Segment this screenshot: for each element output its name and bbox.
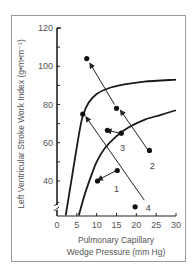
data-point [95, 178, 100, 183]
lower-curve [79, 110, 176, 215]
axes: 406080100120051015202530 [38, 23, 181, 230]
data-point [84, 56, 89, 61]
x-tick-label: 30 [171, 220, 181, 230]
y-tick-label: 100 [38, 61, 53, 71]
x-tick-label: 0 [54, 220, 59, 230]
y-tick-label: 80 [43, 100, 53, 110]
chart: 406080100120051015202530 1234 Left Ventr… [0, 0, 196, 277]
x-axis-title-line-2: Wedge Pressure (mm Hg) [67, 247, 166, 257]
arrow-label: 2 [150, 161, 155, 171]
arrow [98, 170, 117, 180]
data-point [114, 106, 119, 111]
data-point [105, 128, 110, 133]
x-axis-title-line-1: Pulmonary Capillary [78, 235, 155, 245]
arrow-label: 3 [120, 143, 125, 153]
arrow [90, 63, 115, 104]
y-tick-label: 60 [43, 138, 53, 148]
y-tick-label: 40 [43, 176, 53, 186]
data-point [80, 111, 85, 116]
x-tick-label: 20 [131, 220, 141, 230]
arrow-label: 4 [146, 203, 151, 213]
x-tick-label: 25 [151, 220, 161, 230]
x-tick-label: 5 [74, 220, 79, 230]
y-tick-label: 120 [38, 23, 53, 33]
arrow-label: 1 [114, 184, 119, 194]
data-point [147, 148, 152, 153]
data-point [133, 204, 138, 209]
x-tick-label: 15 [111, 220, 121, 230]
x-tick-label: 10 [92, 220, 102, 230]
data-point [119, 131, 124, 136]
y-axis-title: Left Ventricular Stroke Work Index (g•m•… [16, 39, 26, 209]
data-point [115, 168, 120, 173]
